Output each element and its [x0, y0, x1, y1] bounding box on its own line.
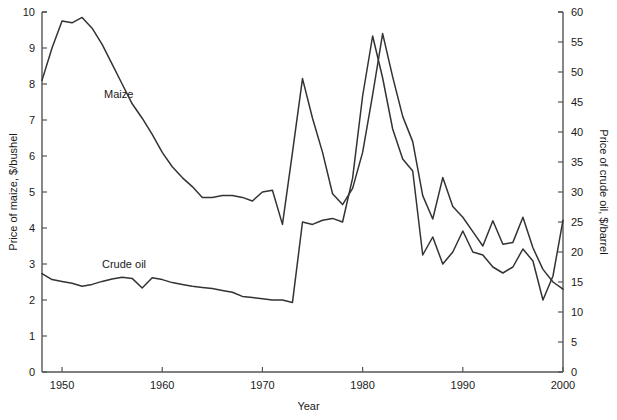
y-tick-label-left: 7 — [29, 114, 35, 126]
x-tick-label: 1980 — [350, 379, 374, 391]
y-tick-label-left: 5 — [29, 186, 35, 198]
y-tick-label-left: 2 — [29, 294, 35, 306]
y-tick-label-right: 20 — [571, 246, 583, 258]
y-tick-label-right: 10 — [571, 306, 583, 318]
y-tick-label-right: 45 — [571, 96, 583, 108]
y-tick-label-right: 50 — [571, 66, 583, 78]
y-axis-right-ticks: 051015202530354045505560 — [558, 6, 583, 378]
data-series-lines — [42, 17, 563, 302]
y-tick-label-right: 35 — [571, 156, 583, 168]
y-tick-label-left: 8 — [29, 78, 35, 90]
y-axis-left-ticks: 012345678910 — [23, 6, 47, 378]
x-tick-label: 1960 — [150, 379, 174, 391]
chart-figure: Price of maize, $/bushel Price of crude … — [0, 0, 617, 420]
y-tick-label-left: 9 — [29, 42, 35, 54]
x-tick-label: 1990 — [451, 379, 475, 391]
x-tick-label: 2000 — [551, 379, 575, 391]
y-tick-label-right: 5 — [571, 336, 577, 348]
x-axis-ticks: 195019601970198019902000 — [50, 367, 575, 391]
plot-area: 012345678910 051015202530354045505560 19… — [0, 0, 617, 420]
y-tick-label-right: 40 — [571, 126, 583, 138]
y-tick-label-right: 60 — [571, 6, 583, 18]
series-line-maize — [42, 17, 563, 289]
y-tick-label-right: 15 — [571, 276, 583, 288]
y-tick-label-left: 10 — [23, 6, 35, 18]
y-tick-label-right: 30 — [571, 186, 583, 198]
y-tick-label-right: 25 — [571, 216, 583, 228]
x-tick-label: 1950 — [50, 379, 74, 391]
y-tick-label-left: 6 — [29, 150, 35, 162]
series-line-crude-oil — [42, 36, 563, 302]
y-tick-label-left: 4 — [29, 222, 35, 234]
y-tick-label-left: 1 — [29, 330, 35, 342]
x-tick-label: 1970 — [250, 379, 274, 391]
y-tick-label-right: 0 — [571, 366, 577, 378]
y-tick-label-left: 3 — [29, 258, 35, 270]
y-tick-label-left: 0 — [29, 366, 35, 378]
y-tick-label-right: 55 — [571, 36, 583, 48]
axis-spines — [42, 12, 563, 372]
